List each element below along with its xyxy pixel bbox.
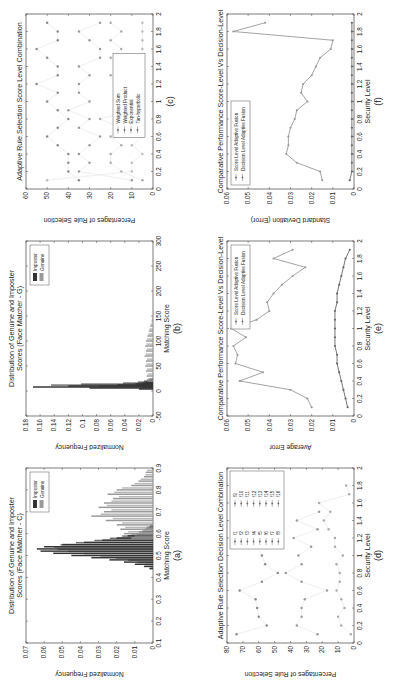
legend-entry: f3 <box>245 531 250 535</box>
y-tick-label: 0.04 <box>121 419 128 432</box>
x-tick-label: 0.4 <box>356 149 363 158</box>
figure-stage: Distribution of Genuine and ImposterScor… <box>0 0 402 681</box>
legend-entry: f7 <box>270 531 275 535</box>
legend-entry: f9 <box>233 493 238 497</box>
x-tick-label: 0.8 <box>356 114 363 123</box>
panel-caption: (b) <box>172 323 182 334</box>
legend-entry: Weighted Sum <box>116 93 121 123</box>
x-tick-label: 0 <box>356 414 363 418</box>
panel-d: Adaptive Rule Selection Decision Level C… <box>201 454 402 681</box>
legend-entry: f15 <box>270 490 275 497</box>
x-tick-label: 1.8 <box>356 481 363 490</box>
x-tick-label: 0.6 <box>155 529 162 538</box>
y-tick-label: 40 <box>287 646 294 654</box>
x-tick-label: 1 <box>155 99 162 103</box>
x-tick-label: 0.6 <box>356 586 363 595</box>
x-tick-label: 250 <box>155 260 162 271</box>
x-tick-label: 0.7 <box>155 507 162 516</box>
x-tick-label: 50 <box>155 362 162 370</box>
x-tick-label: 0.2 <box>155 616 162 625</box>
x-tick-label: 1.8 <box>356 27 363 36</box>
chart-d: Adaptive Rule Selection Decision Level C… <box>201 454 402 681</box>
legend-entry: Exponential <box>129 99 134 123</box>
y-tick-label: 40 <box>65 192 72 200</box>
panel-caption: (f) <box>373 97 383 106</box>
legend-entry: f11 <box>245 491 250 497</box>
y-tick-label: 0.03 <box>287 192 294 205</box>
panel-caption: (d) <box>373 550 383 561</box>
legend-entry: Imposter <box>33 253 38 271</box>
x-tick-label: 150 <box>155 310 162 321</box>
y-tick-label: 0 <box>149 419 156 423</box>
legend-entry: Imposter <box>33 480 38 498</box>
y-tick-label: 0 <box>149 192 156 196</box>
x-tick-label: 1.2 <box>356 306 363 315</box>
y-tick-label: 0.06 <box>107 419 114 432</box>
x-tick-label: 1.2 <box>356 533 363 542</box>
x-tick-label: 1.6 <box>356 271 363 280</box>
chart-c: Adaptive Rule Selection Score Level Comb… <box>0 0 201 227</box>
x-tick-label: 1.6 <box>356 498 363 507</box>
y-tick-label: 0.02 <box>135 419 142 432</box>
legend-entry: Tan-hyperbolic <box>136 93 141 124</box>
y-tick-label: 30 <box>303 646 310 654</box>
x-tick-label: 0.2 <box>356 621 363 630</box>
y-tick-label: 0.01 <box>131 646 138 659</box>
legend-entry: f8 <box>276 531 281 535</box>
legend-entry: Genuine <box>40 253 45 271</box>
x-tick-label: 0.4 <box>356 603 363 612</box>
x-tick-label: 1.6 <box>155 44 162 53</box>
x-tick-label: 100 <box>155 335 162 346</box>
y-tick-label: 80 <box>223 646 230 654</box>
x-tick-label: 1.8 <box>356 254 363 263</box>
y-tick-label: 0.14 <box>50 419 57 432</box>
x-tick-label: 0.6 <box>356 132 363 141</box>
y-tick-label: 70 <box>239 646 246 654</box>
panel-f: Comparative Performance Score-Level Vs D… <box>201 0 402 227</box>
x-tick-label: 1 <box>356 326 363 330</box>
x-tick-label: 0.6 <box>155 132 162 141</box>
y-tick-label: 50 <box>43 192 50 200</box>
chart-title: Comparative Performance Score-Level Vs D… <box>216 236 225 420</box>
y-axis-label: Percentages of Rule Selection <box>44 216 136 224</box>
y-tick-label: 0 <box>350 192 357 196</box>
y-tick-label: 0.05 <box>58 646 65 659</box>
y-axis-label: Normalized Frequency <box>55 443 124 451</box>
y-tick-label: 0 <box>350 419 357 423</box>
x-axis-label: Security Level <box>364 533 372 577</box>
x-tick-label: 1.8 <box>155 27 162 36</box>
y-tick-label: 0.12 <box>65 419 72 432</box>
x-tick-label: 0.8 <box>356 341 363 350</box>
legend-entry: Decision Level Adaptive Fusion <box>241 107 246 171</box>
y-tick-label: 0.04 <box>266 192 273 205</box>
panel-e: Comparative Performance Score-Level Vs D… <box>201 227 402 454</box>
panel-caption: (c) <box>165 96 175 107</box>
y-axis-label: Percentages of Rule Selection <box>245 670 337 678</box>
legend-entry: Score Level Adaptive Fusion <box>234 112 239 171</box>
legend-entry: f12 <box>252 490 257 497</box>
y-tick-label: 0 <box>149 646 156 650</box>
x-tick-label: 0 <box>155 389 162 393</box>
x-tick-label: 2 <box>356 466 363 470</box>
x-tick-label: 0 <box>356 641 363 645</box>
chart-title: Scores (Face Matcher - G) <box>15 286 24 371</box>
x-tick-label: 1.4 <box>356 289 363 298</box>
x-tick-label: 1.2 <box>155 79 162 88</box>
legend-entry: f10 <box>239 490 244 497</box>
panel-b: Distribution of Genuine and ImposterScor… <box>0 227 201 454</box>
y-tick-label: 0.02 <box>308 419 315 432</box>
y-tick-label: 10 <box>128 192 135 200</box>
y-tick-label: 0.01 <box>329 419 336 432</box>
chart-title: Scores (Face Matcher - C) <box>15 513 24 598</box>
x-axis-label: Security Level <box>364 79 372 123</box>
y-axis-label: Standard Deviation (Error) <box>251 216 330 224</box>
x-tick-label: 0.8 <box>356 568 363 577</box>
y-tick-label: 60 <box>22 192 29 200</box>
y-tick-label: 0.03 <box>287 419 294 432</box>
y-tick-label: 20 <box>107 192 114 200</box>
x-tick-label: 2 <box>155 12 162 16</box>
x-tick-label: 1.4 <box>356 516 363 525</box>
x-tick-label: 0.6 <box>356 359 363 368</box>
y-tick-label: 0.07 <box>22 646 29 659</box>
legend-entry: f1 <box>233 531 238 535</box>
